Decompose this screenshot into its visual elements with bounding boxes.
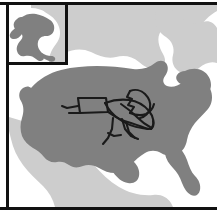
alaska-inset <box>9 5 68 65</box>
left-frame-rule <box>6 2 9 210</box>
alaska-inset-canvas <box>9 5 65 62</box>
distribution-map-figure <box>0 0 217 215</box>
top-frame-rule <box>0 2 217 5</box>
bottom-frame-rule <box>0 207 217 210</box>
